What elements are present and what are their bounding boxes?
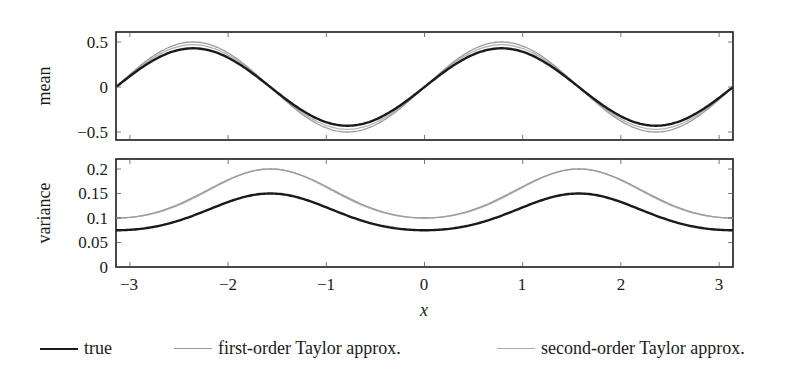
x-axis-label: x xyxy=(419,300,428,320)
xtick-neg1: −1 xyxy=(317,275,335,294)
mean-ytick-0.5: 0.5 xyxy=(87,33,108,52)
variance-panel: 0.2 0.15 0.1 0.05 0 variance −3 −2 −1 0 … xyxy=(34,159,733,320)
variance-ytick-0.2: 0.2 xyxy=(87,160,108,179)
xtick-neg2: −2 xyxy=(219,275,237,294)
xtick-1: 1 xyxy=(518,275,527,294)
mean-ytick-0: 0 xyxy=(100,78,109,97)
xtick-3: 3 xyxy=(715,275,724,294)
legend-swatch-true-icon xyxy=(40,348,78,350)
legend-label-second-order: second-order Taylor approx. xyxy=(541,338,745,359)
variance-ytick-0.15: 0.15 xyxy=(78,184,108,203)
variance-plot-frame xyxy=(116,159,733,267)
legend-label-first-order: first-order Taylor approx. xyxy=(218,338,401,359)
variance-ytick-0: 0 xyxy=(100,258,109,277)
legend-swatch-second-order-icon xyxy=(497,348,535,349)
legend-label-true: true xyxy=(84,338,112,359)
legend-item-first-order: first-order Taylor approx. xyxy=(174,338,401,359)
variance-ytick-0.1: 0.1 xyxy=(87,209,108,228)
mean-axis-label: mean xyxy=(34,67,54,106)
variance-axis-label: variance xyxy=(34,183,54,244)
xtick-2: 2 xyxy=(617,275,626,294)
figure: 0.5 0 −0.5 mean 0.2 0.15 0.1 0.05 0 vari… xyxy=(0,0,804,375)
xtick-neg3: −3 xyxy=(120,275,138,294)
legend-item-second-order: second-order Taylor approx. xyxy=(497,338,745,359)
legend-swatch-first-order-icon xyxy=(174,348,212,349)
mean-ytick-neg0.5: −0.5 xyxy=(77,123,108,142)
xtick-0: 0 xyxy=(420,275,429,294)
variance-ytick-0.05: 0.05 xyxy=(78,233,108,252)
mean-panel: 0.5 0 −0.5 mean xyxy=(34,32,733,142)
legend: true first-order Taylor approx. second-o… xyxy=(0,338,804,368)
legend-item-true: true xyxy=(40,338,112,359)
